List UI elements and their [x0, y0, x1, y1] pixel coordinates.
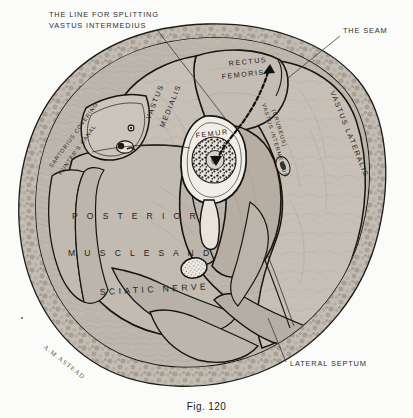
callout-lateral-septum-text: LATERAL SEPTUM — [290, 359, 367, 368]
figure-caption: Fig. 120 — [0, 401, 413, 412]
callout-seam: THE SEAM — [343, 26, 388, 35]
linea-aspera — [200, 200, 219, 250]
callout-seam-text: THE SEAM — [343, 26, 388, 35]
callout-splitting-line-text1: THE LINE FOR SPLITTING — [49, 10, 159, 19]
callout-lateral-septum: LATERAL SEPTUM — [290, 359, 367, 368]
plate-speck — [21, 317, 23, 319]
figure-plate: THE LINE FOR SPLITTING VASTUS INTERMEDIU… — [0, 0, 413, 418]
thigh-cross-section-illustration: THE LINE FOR SPLITTING VASTUS INTERMEDIU… — [0, 0, 413, 418]
label-posterior-line1: P O S T E R I O R — [72, 211, 199, 221]
callout-splitting-line: THE LINE FOR SPLITTING VASTUS INTERMEDIU… — [49, 10, 159, 30]
callout-splitting-line-text2: VASTUS INTERMEDIUS — [49, 21, 146, 30]
label-posterior-line2: M U S C L E S A N D — [68, 248, 213, 258]
